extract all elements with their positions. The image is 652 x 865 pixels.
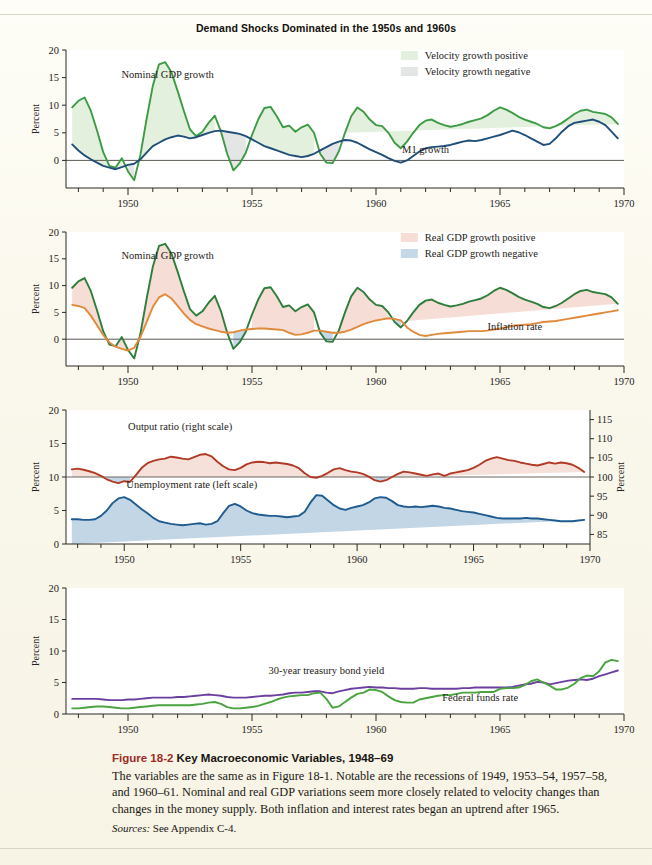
x-tick-label: 1965 [490, 198, 511, 209]
top-divider-rule [0, 14, 652, 15]
series-annotation: Unemployment rate (left scale) [126, 479, 257, 491]
legend-label: Real GDP growth positive [425, 232, 536, 243]
x-tick-label: 1965 [490, 376, 511, 387]
y-tick-label-left: 15 [49, 614, 60, 625]
series-annotation: Federal funds rate [442, 692, 518, 703]
x-tick-label: 1955 [242, 198, 263, 209]
x-tick-label: 1950 [114, 554, 135, 565]
y-tick-label-left: 5 [54, 307, 59, 318]
series-annotation: Nominal GDP growth [122, 69, 215, 80]
y-axis-title-left: Percent [30, 284, 41, 314]
x-tick-label: 1965 [490, 724, 511, 735]
x-tick-label: 1955 [230, 554, 251, 565]
x-tick-label: 1960 [347, 554, 368, 565]
y-tick-label-left: 5 [54, 127, 59, 138]
y-tick-label-left: 20 [49, 583, 60, 594]
series-annotation: Inflation rate [488, 321, 543, 332]
series-annotation: Output ratio (right scale) [128, 421, 233, 433]
y-tick-label-left: 10 [49, 646, 60, 657]
x-tick-label: 1970 [614, 376, 635, 387]
x-tick-label: 1960 [366, 376, 387, 387]
y-axis-title-left: Percent [30, 636, 41, 666]
legend-label: Real GDP growth negative [425, 248, 538, 259]
y-tick-label-left: 20 [49, 45, 60, 56]
caption-figure-title: Key Macroeconomic Variables, 1948–69 [177, 752, 394, 764]
y-tick-label-left: 20 [49, 227, 60, 238]
caption-sources-text: See Appendix C-4. [153, 822, 236, 834]
x-tick-label: 1950 [118, 724, 139, 735]
series-annotation: M1 growth [402, 144, 450, 155]
figure-headline: Demand Shocks Dominated in the 1950s and… [0, 22, 652, 34]
legend-swatch [401, 249, 418, 258]
bottom-divider-rule [0, 848, 652, 849]
y-tick-label-left: 10 [49, 100, 60, 111]
legend-label: Velocity growth positive [425, 50, 529, 61]
y-tick-label-right: 85 [597, 529, 608, 540]
y-tick-label-right: 115 [597, 414, 612, 425]
x-tick-label: 1955 [242, 724, 263, 735]
panel-interest-rates: 0510152019501955196019651970Percent30-ye… [0, 578, 652, 748]
y-tick-label-left: 15 [49, 72, 60, 83]
caption-body-text: The variables are the same as in Figure … [112, 768, 624, 817]
panel-output-unemployment: 0510152085909510010511011519501955196019… [0, 400, 652, 578]
panel-realgdp: 0510152019501955196019651970PercentNomin… [0, 222, 652, 400]
y-tick-label-right: 90 [597, 510, 608, 521]
x-tick-label: 1970 [614, 724, 635, 735]
caption-figure-number: Figure 18-2 [112, 752, 173, 764]
plot-area-background [66, 588, 624, 714]
y-tick-label-left: 20 [49, 405, 60, 416]
y-axis-title-left: Percent [30, 462, 41, 492]
y-tick-label-right: 100 [597, 472, 613, 483]
y-tick-label-left: 0 [54, 709, 59, 720]
y-tick-label-right: 95 [597, 491, 608, 502]
x-tick-label: 1965 [463, 554, 484, 565]
panel-velocity: 0510152019501955196019651970PercentNomin… [0, 40, 652, 222]
series-annotation: Nominal GDP growth [122, 250, 215, 261]
series-annotation: 30-year treasury bond yield [269, 665, 386, 676]
caption-sources-label: Sources: [112, 822, 150, 834]
y-tick-label-left: 15 [49, 253, 60, 264]
y-tick-label-left: 0 [54, 155, 59, 166]
y-tick-label-left: 10 [49, 280, 60, 291]
y-tick-label-left: 5 [54, 505, 59, 516]
y-tick-label-left: 5 [54, 677, 59, 688]
legend-swatch [401, 67, 418, 76]
legend-label: Velocity growth negative [425, 66, 531, 77]
y-tick-label-left: 0 [54, 334, 59, 345]
figure-page: Demand Shocks Dominated in the 1950s and… [0, 0, 652, 865]
y-axis-title-right: Percent [615, 462, 626, 492]
y-tick-label-left: 15 [49, 438, 60, 449]
x-tick-label: 1955 [242, 376, 263, 387]
caption-sources: Sources: See Appendix C-4. [112, 822, 624, 834]
figure-caption: Figure 18-2 Key Macroeconomic Variables,… [112, 752, 624, 834]
y-tick-label-right: 105 [597, 452, 613, 463]
panel-velocity-svg: 0510152019501955196019651970PercentNomin… [0, 40, 652, 222]
x-tick-label: 1950 [118, 376, 139, 387]
y-tick-label-right: 110 [597, 433, 612, 444]
x-tick-label: 1970 [614, 198, 635, 209]
panel-realgdp-svg: 0510152019501955196019651970PercentNomin… [0, 222, 652, 400]
panel-output-unemployment-svg: 0510152085909510010511011519501955196019… [0, 400, 652, 578]
y-tick-label-left: 0 [54, 539, 59, 550]
caption-heading: Figure 18-2 Key Macroeconomic Variables,… [112, 752, 624, 764]
x-tick-label: 1960 [366, 198, 387, 209]
y-tick-label-left: 10 [49, 472, 60, 483]
x-tick-label: 1960 [366, 724, 387, 735]
x-tick-label: 1970 [580, 554, 601, 565]
legend-swatch [401, 51, 418, 60]
y-axis-title-left: Percent [30, 104, 41, 134]
x-tick-label: 1950 [118, 198, 139, 209]
panel-interest-rates-svg: 0510152019501955196019651970Percent30-ye… [0, 578, 652, 748]
legend-swatch [401, 233, 418, 242]
